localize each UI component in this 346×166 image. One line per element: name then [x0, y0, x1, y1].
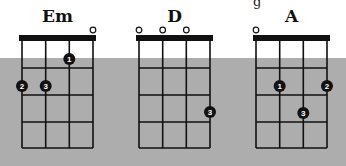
nut-bar	[136, 35, 213, 41]
fret-lines	[256, 68, 327, 148]
svg-text:2: 2	[20, 82, 25, 91]
svg-text:1: 1	[277, 82, 282, 91]
chord-name: Em	[42, 6, 73, 26]
chord-diagram-em: Em 1 2 3	[16, 6, 96, 148]
open-string-icon	[136, 27, 142, 33]
finger-dot: 1	[63, 53, 75, 65]
finger-dot: 3	[40, 80, 52, 92]
svg-text:3: 3	[301, 109, 306, 118]
fret-lines	[139, 68, 210, 148]
chord-diagram-d: D 3	[136, 6, 216, 148]
finger-dot: 2	[16, 80, 28, 92]
nut-bar	[19, 35, 96, 41]
svg-text:2: 2	[325, 82, 330, 91]
finger-dot: 3	[297, 107, 309, 119]
chord-diagrams: Em 1 2 3 D	[0, 0, 346, 166]
open-string-icon	[90, 27, 96, 33]
chord-name: A	[284, 6, 299, 26]
open-string-icon	[160, 27, 166, 33]
finger-dot: 3	[204, 106, 216, 118]
finger-dot: 2	[321, 80, 333, 92]
nut-bar	[253, 35, 330, 41]
svg-text:3: 3	[43, 82, 48, 91]
finger-dot: 1	[274, 80, 286, 92]
open-string-icon	[184, 27, 190, 33]
chord-diagram-a: A 1 2 3	[253, 6, 333, 148]
svg-text:1: 1	[67, 55, 72, 64]
chord-name: D	[167, 6, 182, 26]
open-string-icon	[253, 27, 259, 33]
svg-text:3: 3	[208, 108, 213, 117]
fret-lines	[22, 68, 93, 148]
